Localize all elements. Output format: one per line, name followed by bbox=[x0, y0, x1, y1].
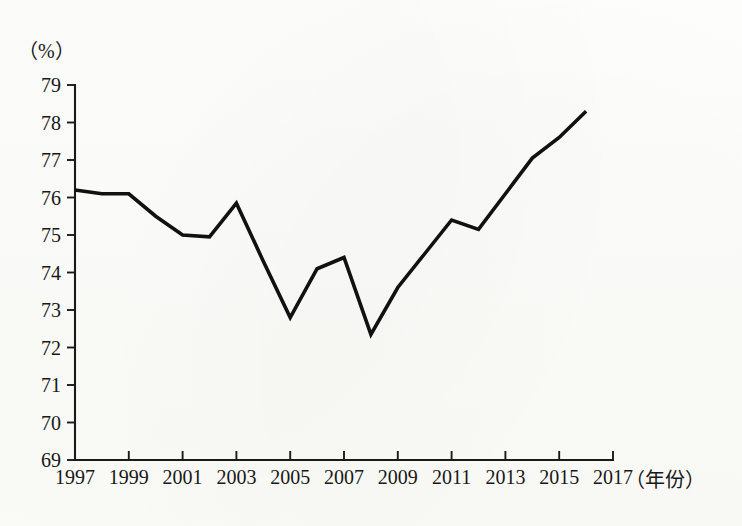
x-tick-label: 1999 bbox=[109, 466, 149, 488]
x-tick-label: 2001 bbox=[163, 466, 203, 488]
y-axis-unit-label: （%） bbox=[18, 40, 75, 62]
y-tick-label: 76 bbox=[41, 187, 61, 209]
y-axis-ticks bbox=[67, 85, 75, 460]
x-tick-label: 2011 bbox=[432, 466, 471, 488]
y-tick-label: 72 bbox=[41, 337, 61, 359]
x-axis-ticks bbox=[75, 451, 613, 460]
x-tick-label: 2003 bbox=[216, 466, 256, 488]
chart-page: （%） （年份） 6970717273747576777879 19971999… bbox=[0, 0, 742, 526]
x-tick-label: 1997 bbox=[55, 466, 95, 488]
x-tick-label: 2013 bbox=[485, 466, 525, 488]
y-tick-label: 71 bbox=[41, 374, 61, 396]
y-axis-tick-labels: 6970717273747576777879 bbox=[41, 74, 61, 471]
x-tick-label: 2009 bbox=[378, 466, 418, 488]
x-tick-label: 2015 bbox=[539, 466, 579, 488]
x-axis-tick-labels: 1997199920012003200520072009201120132015… bbox=[55, 466, 633, 488]
x-tick-label: 2017 bbox=[593, 466, 633, 488]
line-chart-canvas: （%） （年份） 6970717273747576777879 19971999… bbox=[0, 0, 742, 526]
x-tick-label: 2005 bbox=[270, 466, 310, 488]
y-tick-label: 74 bbox=[41, 262, 61, 284]
y-tick-label: 78 bbox=[41, 112, 61, 134]
y-tick-label: 70 bbox=[41, 412, 61, 434]
y-tick-label: 75 bbox=[41, 224, 61, 246]
y-tick-label: 77 bbox=[41, 149, 61, 171]
data-series-line bbox=[75, 111, 586, 334]
y-tick-label: 79 bbox=[41, 74, 61, 96]
x-axis-unit-label: （年份） bbox=[625, 469, 705, 491]
x-tick-label: 2007 bbox=[324, 466, 364, 488]
y-tick-label: 73 bbox=[41, 299, 61, 321]
